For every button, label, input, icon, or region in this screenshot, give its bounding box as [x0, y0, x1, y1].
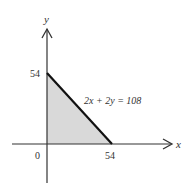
line-equation-label: 2x + 2y = 108 — [84, 95, 141, 106]
origin-label: 0 — [35, 150, 40, 161]
coordinate-diagram: y x 0 54 54 2x + 2y = 108 — [0, 0, 190, 192]
x-axis-label: x — [175, 138, 181, 150]
x-intercept-label: 54 — [105, 150, 115, 161]
y-axis-label: y — [43, 13, 49, 25]
y-intercept-label: 54 — [30, 68, 40, 79]
